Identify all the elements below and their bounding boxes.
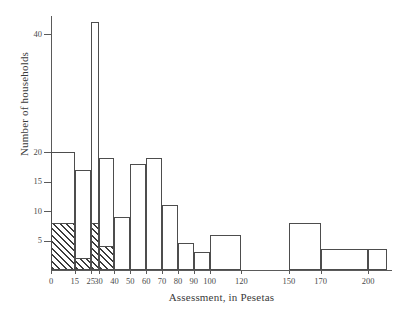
x-tick-0 <box>51 270 52 274</box>
x-tick-label-120: 120 <box>229 277 253 286</box>
y-axis-title: Number of households <box>18 24 30 184</box>
x-tick-100 <box>210 270 211 274</box>
x-axis-title: Assessment, in Pesetas <box>51 291 392 303</box>
x-axis-line <box>51 270 392 271</box>
x-tick-60 <box>146 270 147 274</box>
histogram-bar <box>146 158 162 270</box>
x-tick-label-150: 150 <box>277 277 301 286</box>
histogram-chart: 510152040 015253040506070809010012015017… <box>0 0 395 314</box>
y-tick-label-10: 10 <box>20 207 42 216</box>
x-tick-170 <box>321 270 322 274</box>
y-tick-5 <box>44 241 51 242</box>
x-tick-200 <box>368 270 369 274</box>
histogram-bar <box>75 170 91 270</box>
histogram-bar <box>368 249 387 270</box>
x-tick-label-170: 170 <box>309 277 333 286</box>
y-tick-15 <box>44 182 51 183</box>
x-tick-25 <box>91 270 92 274</box>
histogram-bar <box>178 243 194 270</box>
histogram-bar <box>210 235 242 270</box>
histogram-bar-hatched-segment <box>75 258 91 270</box>
y-tick-10 <box>44 211 51 212</box>
x-tick-120 <box>241 270 242 274</box>
x-tick-40 <box>114 270 115 274</box>
x-tick-label-100: 100 <box>198 277 222 286</box>
histogram-bar-hatched-segment <box>99 246 115 270</box>
y-tick-20 <box>44 152 51 153</box>
histogram-bar <box>162 205 178 270</box>
histogram-bar <box>289 223 321 270</box>
histogram-bar <box>130 164 146 270</box>
y-tick-40 <box>44 34 51 35</box>
x-tick-70 <box>162 270 163 274</box>
histogram-bar-hatched-segment <box>91 223 99 270</box>
x-tick-label-0: 0 <box>39 277 63 286</box>
y-tick-label-5: 5 <box>20 236 42 245</box>
x-tick-15 <box>75 270 76 274</box>
x-tick-50 <box>130 270 131 274</box>
x-tick-80 <box>178 270 179 274</box>
x-tick-90 <box>194 270 195 274</box>
histogram-bar <box>114 217 130 270</box>
x-tick-label-200: 200 <box>356 277 380 286</box>
histogram-bar <box>194 252 210 270</box>
histogram-bar-hatched-segment <box>51 223 75 270</box>
histogram-bar <box>321 249 369 270</box>
x-tick-150 <box>289 270 290 274</box>
x-tick-30 <box>99 270 100 274</box>
